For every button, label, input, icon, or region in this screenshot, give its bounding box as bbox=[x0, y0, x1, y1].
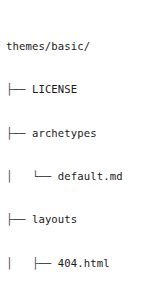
tree-branch-guide: ├── bbox=[6, 213, 32, 225]
folder-name: layouts bbox=[32, 213, 77, 225]
tree-row-default-md: │ └── default.md bbox=[6, 169, 155, 183]
file-name: default.md bbox=[58, 170, 123, 182]
tree-branch-guide: │ ├── bbox=[6, 257, 58, 269]
tree-row-404-html: │ ├── 404.html bbox=[6, 256, 155, 270]
folder-name: archetypes bbox=[32, 127, 97, 139]
tree-row-archetypes: ├── archetypes bbox=[6, 126, 155, 140]
directory-tree: themes/basic/ ├── LICENSE ├── archetypes… bbox=[6, 10, 155, 298]
tree-row-layouts: ├── layouts bbox=[6, 212, 155, 226]
tree-root: themes/basic/ bbox=[6, 39, 155, 53]
tree-branch-guide: ├── bbox=[6, 127, 32, 139]
tree-branch-guide: ├── bbox=[6, 83, 32, 95]
file-name: LICENSE bbox=[32, 83, 77, 95]
file-name: 404.html bbox=[58, 257, 110, 269]
tree-row-license: ├── LICENSE bbox=[6, 82, 155, 96]
tree-branch-guide: │ └── bbox=[6, 170, 58, 182]
